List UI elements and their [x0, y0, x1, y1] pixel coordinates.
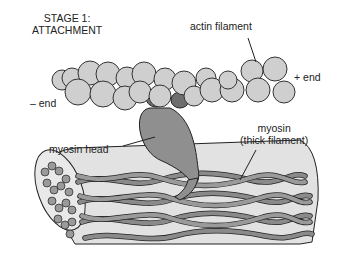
label-myosin-line2: (thick filament) [240, 134, 308, 146]
diagram-canvas: STAGE 1: ATTACHMENT actin filament – end… [0, 0, 337, 259]
label-minus-end: – end [30, 97, 56, 109]
stage-title-line1: STAGE 1: [32, 12, 102, 24]
label-myosin-line1: myosin [240, 122, 308, 134]
stage-title: STAGE 1: ATTACHMENT [32, 12, 102, 36]
label-actin-filament: actin filament [190, 20, 252, 32]
label-plus-end: + end [294, 71, 321, 83]
stage-title-line2: ATTACHMENT [32, 24, 102, 36]
label-myosin-thick-filament: myosin (thick filament) [240, 122, 308, 146]
label-myosin-head: myosin head [49, 143, 109, 155]
